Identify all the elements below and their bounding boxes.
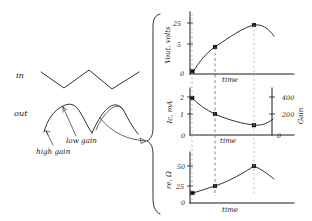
- ic-ytick-label-0: 0: [181, 132, 185, 140]
- waveform-to-charts-arrow: [100, 118, 146, 141]
- re-y-axis-title: re, Ω: [165, 171, 173, 189]
- re-ytick-label-50: 50: [177, 163, 185, 171]
- brace-path: [147, 14, 160, 214]
- vout-ytick-label-5: 5: [177, 41, 181, 49]
- vout-x-axis-title: time: [222, 76, 238, 84]
- re-x-axis-title: time: [222, 206, 238, 214]
- ic-y-axis-title: Ic, mA: [166, 101, 174, 125]
- ic-data-curve: [192, 98, 273, 125]
- figure-canvas: in out high gain low gain 25 5 0 Vout, v…: [0, 0, 312, 221]
- low-gain-leader: [63, 107, 76, 136]
- figure-root: in out high gain low gain 25 5 0 Vout, v…: [0, 0, 312, 221]
- re-ytick-label-25: 25: [175, 183, 184, 191]
- ic-ytick-label-2: 2: [179, 94, 184, 102]
- gain-ytick-label-400: 400: [281, 94, 294, 102]
- output-label: out: [14, 108, 28, 118]
- input-waveform: [41, 70, 139, 89]
- vout-ytick-label-0: 0: [180, 70, 184, 78]
- waveform-section: in out high gain low gain: [14, 70, 146, 156]
- vout-point-0: [191, 70, 195, 74]
- re-data-curve: [193, 166, 274, 193]
- ic-x-axis-title: time: [220, 137, 236, 145]
- input-label: in: [16, 70, 24, 80]
- gain-ytick-label-200: 200: [281, 111, 294, 119]
- cross-chart-guides: [192, 14, 254, 203]
- vout-data-curve: [193, 25, 274, 72]
- vout-ytick-label-25: 25: [172, 20, 181, 28]
- high-gain-arrowhead: [46, 131, 50, 135]
- gain-ytick-label-0: 0: [277, 132, 281, 140]
- re-ytick-label-0: 0: [181, 199, 185, 207]
- vout-chart: 25 5 0 Vout, volts time: [164, 12, 294, 84]
- vout-y-axis-title: Vout, volts: [164, 26, 172, 64]
- ic-ytick-label-1: 1: [180, 111, 184, 119]
- re-chart: 50 25 0 re, Ω time: [165, 152, 294, 214]
- low-gain-annotation: low gain: [66, 136, 97, 145]
- re-point-0: [191, 191, 195, 195]
- output-waveform-arch-2: [92, 105, 138, 134]
- high-gain-annotation: high gain: [36, 147, 71, 156]
- gain-y-axis-title: Gain: [297, 107, 305, 124]
- grouping-brace: [147, 14, 160, 214]
- ic-gain-chart: 2 1 0 Ic, mA 400 200 0 Gain time: [166, 88, 305, 145]
